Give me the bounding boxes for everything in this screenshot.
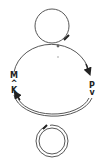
bottom-loop-arrow-icon [43,125,47,129]
center-dot [57,56,58,57]
right-down-arrow-icon: v [87,89,97,97]
main-cycle-lower-arc-outer [14,95,92,116]
node-k-label: K [9,87,19,95]
bottom-loop-inner [39,128,65,154]
junction-dot [57,45,60,48]
top-loop [35,9,69,43]
main-cycle-upper-arc [14,44,89,72]
arrow-to-p-icon [86,64,89,72]
bottom-loop-outer [36,125,68,157]
cycle-diagram: M ^ K P v [0,0,101,161]
